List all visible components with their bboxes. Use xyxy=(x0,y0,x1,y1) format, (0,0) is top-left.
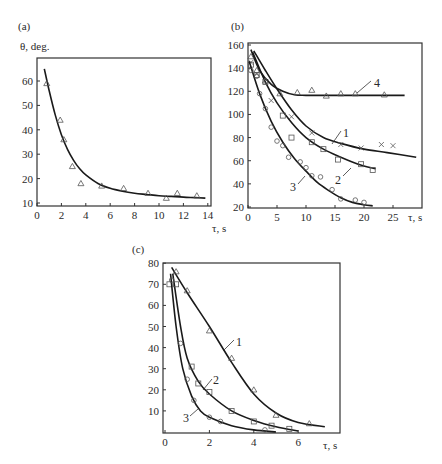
x-tick-label: 15 xyxy=(330,211,342,223)
data-point-cross xyxy=(269,98,274,103)
label-leader xyxy=(357,81,371,93)
panel-a-y-axis-title: θ, deg. xyxy=(20,40,50,52)
x-tick-label: 20 xyxy=(359,211,371,223)
data-point-circle xyxy=(353,198,358,203)
panel-b-label: (b) xyxy=(231,20,244,33)
y-tick-label: 30 xyxy=(22,148,34,160)
data-point-triangle xyxy=(121,185,127,190)
panel-c-plot-area: 123 xyxy=(167,267,325,432)
label-leader xyxy=(343,168,351,176)
y-tick-label: 40 xyxy=(233,178,245,190)
panel-a-plot-area xyxy=(44,69,206,201)
x-tick-label: 6 xyxy=(295,436,301,448)
y-tick-label: 100 xyxy=(228,108,245,120)
data-point-triangle xyxy=(174,190,180,195)
curve-label-2: 2 xyxy=(213,373,219,387)
x-tick-label: 12 xyxy=(178,209,189,221)
y-tick-label: 30 xyxy=(148,363,160,375)
x-tick-label: 4 xyxy=(83,209,89,221)
data-point-circle xyxy=(304,165,309,170)
data-point-triangle xyxy=(78,180,84,185)
curve-2 xyxy=(253,52,376,169)
data-point-triangle xyxy=(309,87,315,92)
y-tick-label: 10 xyxy=(22,197,34,209)
y-tick-label: 70 xyxy=(148,278,160,290)
y-tick-label: 40 xyxy=(148,342,160,354)
curve-label-3: 3 xyxy=(290,180,296,194)
x-tick-label: 2 xyxy=(207,436,213,448)
x-tick-label: 0 xyxy=(162,436,168,448)
y-tick-label: 80 xyxy=(233,132,245,144)
y-tick-label: 140 xyxy=(228,62,245,74)
y-tick-label: 120 xyxy=(228,85,245,97)
data-point-cross xyxy=(391,143,396,148)
data-point-circle xyxy=(318,175,323,180)
data-point-triangle xyxy=(294,89,300,94)
y-tick-label: 60 xyxy=(22,75,34,87)
data-point-circle xyxy=(330,187,335,192)
panel-c-plot-frame xyxy=(163,263,340,433)
y-tick-label: 50 xyxy=(22,99,34,111)
x-tick-label: 14 xyxy=(202,209,214,221)
x-tick-label: 5 xyxy=(274,211,280,223)
label-leader xyxy=(223,340,234,351)
curve-label-4: 4 xyxy=(374,76,380,90)
panel-c: (c) 02461020304050607080 123 τ, s xyxy=(132,243,340,451)
y-tick-label: 10 xyxy=(148,405,160,417)
data-point-circle xyxy=(275,139,280,144)
data-point-triangle xyxy=(57,117,63,122)
y-tick-label: 20 xyxy=(22,173,34,185)
data-point-circle xyxy=(269,125,274,130)
panel-c-x-axis-title: τ, s xyxy=(323,439,337,451)
y-tick-label: 20 xyxy=(233,201,245,213)
panel-b-x-axis-title: τ, s xyxy=(408,211,422,223)
x-tick-label: 10 xyxy=(154,209,166,221)
y-tick-label: 80 xyxy=(148,257,160,269)
curve-label-2: 2 xyxy=(335,173,341,187)
x-tick-label: 10 xyxy=(301,211,313,223)
panel-a-x-axis-title: τ, s xyxy=(212,222,226,234)
label-leader xyxy=(298,176,305,184)
panel-b: (b) 051015202520406080100120140160 4123 … xyxy=(228,20,423,223)
y-tick-label: 20 xyxy=(148,384,160,396)
data-point-square xyxy=(289,135,294,140)
figure: (a) θ, deg. 02468101214102030405060 τ, s… xyxy=(0,0,442,464)
x-tick-label: 2 xyxy=(59,209,65,221)
x-tick-label: 8 xyxy=(132,209,138,221)
data-point-cross xyxy=(379,142,384,147)
y-tick-label: 50 xyxy=(148,321,160,333)
curve-label-1: 1 xyxy=(236,335,242,349)
panel-a-label: (a) xyxy=(18,20,31,33)
data-point-circle xyxy=(286,155,291,160)
y-tick-label: 40 xyxy=(22,124,34,136)
curve-4 xyxy=(251,50,405,96)
data-point-triangle xyxy=(251,387,257,392)
x-tick-label: 0 xyxy=(34,209,40,221)
y-tick-label: 160 xyxy=(228,39,245,51)
panel-b-plot-area: 4123 xyxy=(248,50,416,206)
x-tick-label: 25 xyxy=(388,211,400,223)
curve-2 xyxy=(173,274,298,431)
curve-label-3: 3 xyxy=(183,411,189,425)
label-leader xyxy=(203,379,212,390)
x-tick-label: 4 xyxy=(251,436,257,448)
label-leader xyxy=(190,409,198,416)
data-point-triangle xyxy=(69,163,75,168)
y-tick-label: 60 xyxy=(233,155,245,167)
panel-a-plot-frame xyxy=(37,58,211,206)
data-point-square xyxy=(335,157,340,162)
fit-curve xyxy=(44,69,205,198)
data-point-cross xyxy=(289,114,294,119)
data-point-circle xyxy=(298,160,303,165)
curve-label-1: 1 xyxy=(343,126,349,140)
y-tick-label: 60 xyxy=(148,299,160,311)
panel-c-label: (c) xyxy=(132,243,145,256)
x-tick-label: 0 xyxy=(245,211,251,223)
panel-a: (a) θ, deg. 02468101214102030405060 τ, s xyxy=(18,20,226,234)
x-tick-label: 6 xyxy=(107,209,113,221)
data-point-triangle xyxy=(381,92,387,97)
